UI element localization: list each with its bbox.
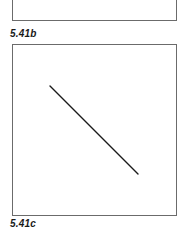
figure-label-b: 5.41b <box>10 29 37 39</box>
figure-panel-b <box>12 0 177 21</box>
figure-panel-c <box>12 44 177 216</box>
figure-label-c: 5.41c <box>10 219 36 229</box>
